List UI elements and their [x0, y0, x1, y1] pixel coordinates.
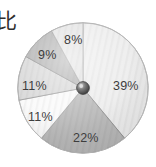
slice-label-11-upper: 11%: [22, 79, 47, 93]
pie-chart-figure: 比: [0, 0, 156, 167]
pie-center-hub-highlight: [79, 84, 83, 88]
slice-label-8: 8%: [64, 33, 82, 47]
slice-label-22: 22%: [73, 131, 99, 145]
slice-label-9: 9%: [38, 48, 56, 62]
slice-label-39: 39%: [113, 79, 139, 93]
pie-center-hub: [77, 82, 90, 95]
slice-label-11-lower: 11%: [28, 110, 53, 124]
